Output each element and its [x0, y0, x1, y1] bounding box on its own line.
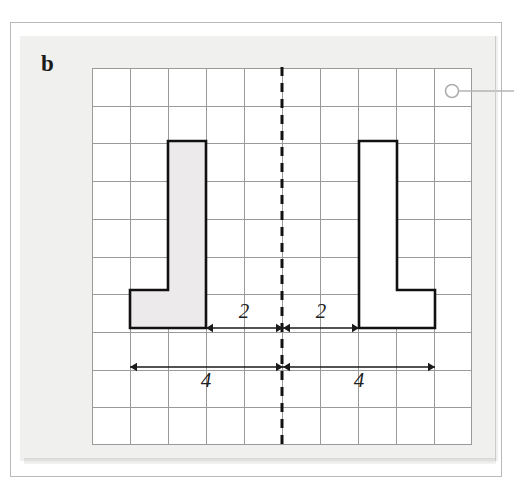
page-edge-rule	[495, 36, 496, 461]
panel-drop-shadow	[24, 458, 496, 464]
hole-punch-marker-icon	[440, 76, 514, 106]
worksheet-page: b 2244	[0, 0, 514, 484]
part-label-b: b	[41, 52, 54, 75]
grid-lines	[92, 68, 472, 445]
coordinate-grid	[92, 68, 472, 445]
